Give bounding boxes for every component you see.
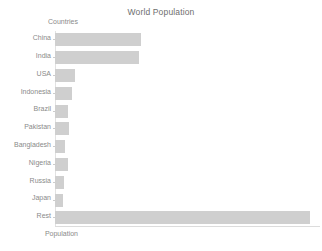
- bar: [55, 51, 139, 64]
- bar-row: Rest: [55, 209, 320, 227]
- bar-row: Nigeria: [55, 156, 320, 174]
- y-axis-tick-label: Japan: [32, 194, 51, 202]
- bar-chart: World Population Countries Population Ch…: [0, 0, 322, 251]
- bar-row: China: [55, 31, 320, 49]
- bar-row: Russia: [55, 173, 320, 191]
- y-axis-tick-label: Bangladesh: [14, 141, 51, 149]
- bar-row: Bangladesh: [55, 138, 320, 156]
- bar: [55, 194, 63, 207]
- y-axis-tick-label: Nigeria: [29, 159, 51, 167]
- y-axis-tick-label: India: [36, 52, 51, 60]
- y-axis-tick-label: Russia: [30, 177, 51, 185]
- bar: [55, 176, 64, 189]
- chart-title: World Population: [0, 7, 322, 17]
- plot-area: ChinaIndiaUSAIndonesiaBrazilPakistanBang…: [55, 31, 320, 227]
- bar: [55, 158, 68, 171]
- bar-row: Japan: [55, 191, 320, 209]
- y-axis-title: Countries: [0, 18, 78, 25]
- bar-row: India: [55, 49, 320, 67]
- bar-row: USA: [55, 67, 320, 85]
- bar: [55, 122, 69, 135]
- y-axis-tick-label: Pakistan: [24, 123, 51, 131]
- bar: [55, 140, 65, 153]
- x-axis-title: Population: [0, 230, 78, 237]
- y-axis-tick-label: Indonesia: [21, 88, 51, 96]
- bar: [55, 105, 68, 118]
- bar-row: Pakistan: [55, 120, 320, 138]
- bar-row: Brazil: [55, 102, 320, 120]
- bar: [55, 33, 141, 46]
- y-axis-tick-label: USA: [37, 70, 51, 78]
- bar: [55, 87, 72, 100]
- bar: [55, 211, 310, 224]
- y-axis-tick-label: Brazil: [33, 105, 51, 113]
- bar-row: Indonesia: [55, 84, 320, 102]
- bar: [55, 69, 75, 82]
- y-axis-tick-label: Rest: [37, 212, 51, 220]
- y-axis-tick-label: China: [33, 34, 51, 42]
